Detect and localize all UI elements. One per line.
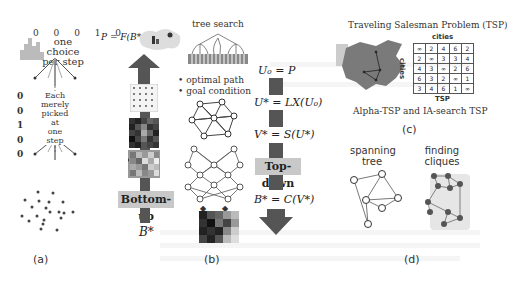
bits-column: 0 0 1 0 0 xyxy=(17,89,23,162)
equation-b-star: B* = C(V*) xyxy=(254,193,314,206)
table-col-header: cities xyxy=(432,33,453,41)
spanning-tree-graph xyxy=(350,170,408,232)
spanning-tree-title: spanning tree xyxy=(350,145,394,167)
panel-label-d: (d) xyxy=(404,253,420,266)
matrix-row: 2∞334 xyxy=(414,54,474,64)
distance-matrix: ∞2462 2∞334 43∞26 632∞1 3461∞ xyxy=(413,43,474,94)
bar-segment xyxy=(269,78,283,95)
matrix-row: 3461∞ xyxy=(414,84,474,94)
table-row-header: cities xyxy=(398,58,406,79)
down-arrow-icon xyxy=(259,209,293,235)
bottom-up-label: Bottom-up xyxy=(118,191,174,208)
bar-segment xyxy=(269,143,283,158)
dot-grid-icon xyxy=(130,84,158,112)
bar-segment xyxy=(269,175,283,190)
scatter-points xyxy=(18,190,80,232)
panel-label-b: (b) xyxy=(204,253,220,266)
heatmap-dark xyxy=(129,118,159,148)
graph-network-small xyxy=(188,98,238,142)
tsp-subtitle: Alpha-TSP and IA-search TSP xyxy=(353,106,488,116)
heatmap-bottom xyxy=(199,211,239,243)
matrix-row: 632∞1 xyxy=(414,74,474,84)
graph-network-large xyxy=(184,145,244,205)
up-arrow-icon xyxy=(128,54,160,84)
equation-u0: U₀ = P xyxy=(258,64,295,77)
bar-segment xyxy=(269,110,283,127)
finding-cliques-title: finding cliques xyxy=(420,145,464,167)
bar-segment xyxy=(140,208,150,223)
equation-v-star: V* = S(U*) xyxy=(254,128,315,141)
tree-search-diagram xyxy=(186,32,250,66)
bar-segment xyxy=(140,178,150,192)
bullet-list: • optimal path • goal condition xyxy=(178,75,251,97)
matrix-row: ∞2462 xyxy=(414,44,474,54)
variable-b-star: B* xyxy=(139,225,154,239)
cloud-image xyxy=(138,26,182,52)
bullet-item: • goal condition xyxy=(178,86,251,97)
matrix-row: 43∞26 xyxy=(414,64,474,74)
table-caption: TSP xyxy=(435,95,450,103)
cliques-graph xyxy=(420,172,476,232)
panel-label-c: (c) xyxy=(402,123,417,136)
equation-u-star: U* = LX(U₀) xyxy=(254,96,322,109)
bullet-item: • optimal path xyxy=(178,75,251,86)
panel-label-a: (a) xyxy=(33,253,48,266)
heatmap-light xyxy=(128,150,160,178)
tsp-title: Traveling Salesman Problem (TSP) xyxy=(348,20,508,30)
caption-each-step: Each merely picked at one step xyxy=(38,91,72,145)
tree-search-label: tree search xyxy=(192,19,244,29)
top-down-label: Top-down xyxy=(255,158,301,175)
